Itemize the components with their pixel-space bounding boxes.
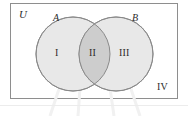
region-label-iii: III	[119, 48, 130, 58]
region-label-ii: II	[89, 48, 96, 58]
region-label-i: I	[55, 48, 59, 58]
set-b-label: B	[132, 13, 138, 23]
set-a-label: A	[53, 13, 59, 23]
crop-edge-line	[0, 105, 188, 106]
venn-diagram-figure: U A B I II III IV	[0, 0, 188, 116]
universal-set-label: U	[19, 9, 27, 20]
region-label-iv: IV	[157, 82, 168, 92]
venn-circles-group	[0, 0, 188, 116]
